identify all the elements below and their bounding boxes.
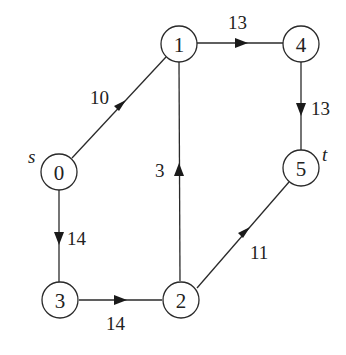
- arrowhead-icon: [54, 232, 64, 245]
- edge-weight-2-5: 11: [250, 242, 268, 263]
- node-0: 0: [41, 154, 77, 190]
- node-3: 3: [42, 282, 78, 318]
- edge-weight-4-5: 13: [311, 98, 330, 119]
- edge-weight-2-1: 3: [155, 160, 165, 181]
- arrowhead-icon: [114, 295, 127, 305]
- arrowhead-icon: [238, 227, 250, 238]
- node-2: 2: [163, 282, 199, 318]
- edge-3-2: [79, 295, 162, 305]
- node-4: 4: [283, 26, 319, 62]
- edge-2-5: [197, 182, 289, 288]
- edge-4-5: [296, 62, 306, 150]
- svg-text:5: 5: [296, 157, 307, 181]
- node-5: 5: [283, 150, 319, 186]
- edge-0-3: [54, 190, 64, 282]
- edge-weight-1-4: 13: [228, 12, 247, 33]
- source-label: s: [28, 146, 35, 167]
- svg-text:0: 0: [54, 161, 65, 185]
- arrowhead-icon: [174, 163, 184, 176]
- arrowhead-icon: [235, 38, 248, 48]
- flow-network-diagram: 10 13 13 14 14 3 11 0 1 2 3 4 5 s t: [0, 0, 346, 355]
- svg-text:1: 1: [174, 33, 185, 57]
- edge-weight-3-2: 14: [106, 313, 126, 334]
- sink-label: t: [322, 144, 328, 165]
- node-1: 1: [161, 26, 197, 62]
- edge-0-1: [72, 57, 166, 158]
- arrowhead-icon: [114, 100, 126, 111]
- edge-1-4: [197, 38, 283, 48]
- svg-text:4: 4: [296, 33, 307, 57]
- edge-2-1: [174, 62, 184, 281]
- svg-text:3: 3: [55, 289, 66, 313]
- svg-text:2: 2: [176, 289, 187, 313]
- edge-weight-0-1: 10: [90, 87, 109, 108]
- arrowhead-icon: [296, 103, 306, 116]
- edge-weight-0-3: 14: [67, 228, 87, 249]
